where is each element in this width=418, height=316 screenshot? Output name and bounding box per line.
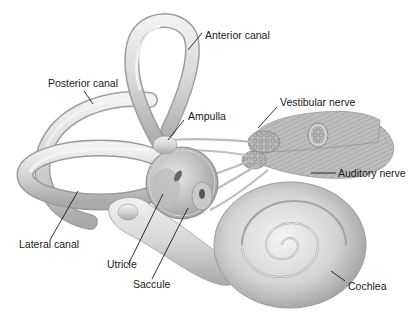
label-anterior-canal: Anterior canal	[205, 29, 270, 41]
label-lateral-canal: Lateral canal	[19, 238, 79, 250]
vestibule-cutaway	[146, 147, 218, 219]
inner-ear-illustration	[0, 0, 418, 316]
inner-ear-diagram: Anterior canal Posterior canal Ampulla V…	[0, 0, 418, 316]
cochlea-shape	[214, 182, 366, 308]
label-auditory-nerve: Auditory nerve	[338, 167, 406, 179]
label-utricle: Utricle	[107, 258, 137, 270]
label-posterior-canal: Posterior canal	[48, 77, 118, 89]
label-ampulla: Ampulla	[188, 110, 226, 122]
label-saccule: Saccule	[133, 278, 170, 290]
ampulla-bulge	[153, 136, 177, 154]
label-cochlea: Cochlea	[348, 280, 387, 292]
label-vestibular-nerve: Vestibular nerve	[280, 96, 355, 108]
